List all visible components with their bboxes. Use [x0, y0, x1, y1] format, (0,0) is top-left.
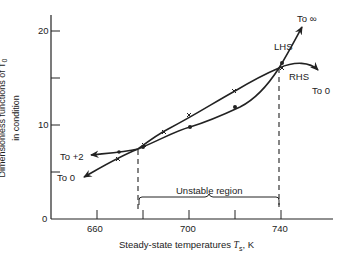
y-axis-label-line1: Dimensionless functions of T	[0, 63, 7, 178]
y-tick-20: 20	[38, 26, 49, 36]
x-tick-660: 660	[87, 224, 103, 234]
x-axis-label: Steady-state temperatures Ts, K	[119, 240, 254, 252]
y-axis-label-subscript: 0	[1, 59, 8, 63]
x-axis-label-text: Steady-state temperatures	[119, 239, 234, 250]
annotation-to-0-left: To 0	[57, 173, 75, 183]
lhs-markers	[117, 61, 284, 154]
annotation-unstable-region: Unstable region	[176, 186, 243, 196]
annotation-to-plus2: To +2	[60, 152, 84, 162]
x-tick-700: 700	[180, 224, 196, 234]
annotation-to-infinity: To ∞	[297, 14, 316, 24]
x-axis-label-unit: , K	[242, 239, 254, 250]
y-ticks	[51, 31, 60, 172]
annotation-to-0-right: To 0	[312, 86, 330, 96]
annotation-lhs: LHS	[274, 42, 292, 52]
y-axis-label-line2: in condition	[10, 95, 20, 141]
annotation-rhs: RHS	[289, 72, 309, 82]
x-tick-740: 740	[272, 224, 288, 234]
y-tick-10: 10	[38, 120, 49, 130]
x-ticks	[97, 210, 281, 219]
y-axis-label: Dimensionless functions of T0 in conditi…	[0, 43, 21, 193]
y-tick-0: 0	[42, 214, 47, 224]
chart-canvas	[0, 0, 343, 257]
